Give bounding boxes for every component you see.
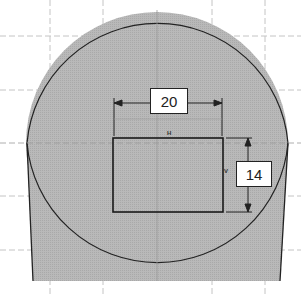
sketch-drawing (0, 0, 301, 294)
sketch-canvas[interactable]: H V 20 14 (0, 0, 301, 294)
vertical-constraint-icon[interactable]: V (224, 168, 228, 174)
dimension-height-value[interactable]: 14 (236, 161, 272, 187)
dimension-width-value[interactable]: 20 (150, 88, 188, 114)
horizontal-constraint-icon[interactable]: H (167, 130, 171, 136)
